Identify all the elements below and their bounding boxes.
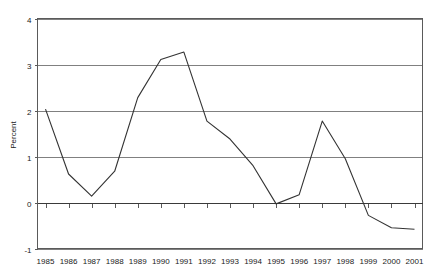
x-tick-label-1996: 1996 (290, 257, 308, 266)
x-tick-label-1987: 1987 (83, 257, 101, 266)
y-tick-label-3: 3 (27, 62, 32, 71)
x-tick-label-1991: 1991 (175, 257, 193, 266)
y-tick-label-2: 2 (27, 108, 32, 117)
x-tick-label-1990: 1990 (152, 257, 170, 266)
x-tick-label-1999: 1999 (359, 257, 377, 266)
y-tick-label-4: 4 (27, 16, 32, 25)
x-tick-label-1986: 1986 (60, 257, 78, 266)
chart-canvas: 43210-1 19851986198719881989199019911992… (0, 0, 437, 272)
x-tick-label-1994: 1994 (244, 257, 262, 266)
x-tick-label-2000: 2000 (383, 257, 401, 266)
x-tick-label-1989: 1989 (129, 257, 147, 266)
x-tick-label-1985: 1985 (37, 257, 55, 266)
x-axis-labels: 1985198619871988198919901991199219931994… (37, 257, 424, 266)
x-tick-label-1988: 1988 (106, 257, 124, 266)
y-tick-label-1: 1 (27, 154, 32, 163)
x-tick-label-1997: 1997 (313, 257, 331, 266)
chart-background (0, 0, 437, 272)
x-tick-label-2001: 2001 (406, 257, 424, 266)
line-chart: 43210-1 19851986198719881989199019911992… (0, 0, 437, 272)
x-tick-label-1992: 1992 (198, 257, 216, 266)
x-tick-label-1993: 1993 (221, 257, 239, 266)
y-axis-title: Percent (9, 120, 18, 148)
x-tick-label-1998: 1998 (336, 257, 354, 266)
y-tick-label--1: -1 (24, 246, 32, 255)
x-tick-label-1995: 1995 (267, 257, 285, 266)
y-tick-label-0: 0 (27, 200, 32, 209)
